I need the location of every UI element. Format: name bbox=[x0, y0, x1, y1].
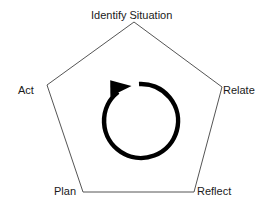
stage-label-reflect: Reflect bbox=[197, 185, 231, 197]
stage-label-identify-situation: Identify Situation bbox=[91, 9, 172, 21]
stage-label-plan: Plan bbox=[54, 185, 76, 197]
stage-label-relate: Relate bbox=[223, 84, 255, 96]
pentagon-diagram bbox=[0, 0, 267, 210]
clockwise-cycle-arrow-icon bbox=[104, 80, 178, 158]
pentagon-outline bbox=[47, 22, 222, 192]
stage-label-act: Act bbox=[18, 84, 34, 96]
